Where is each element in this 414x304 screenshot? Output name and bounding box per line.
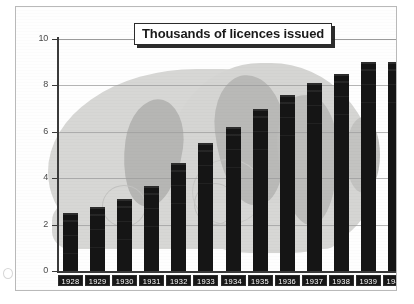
x-axis-label-1937: 1937 — [302, 275, 327, 286]
y-tick-label-8: 8 — [22, 79, 48, 89]
bar-1940 — [388, 62, 397, 271]
x-axis-label-1939: 1939 — [356, 275, 381, 286]
x-axis-label-1933: 1933 — [193, 275, 218, 286]
bar-1936 — [280, 95, 295, 271]
x-axis-label-1929: 1929 — [85, 275, 110, 286]
x-axis-label-1930: 1930 — [112, 275, 137, 286]
page-title: Thousands of licences issued — [142, 26, 324, 41]
x-axis-label-1938: 1938 — [329, 275, 354, 286]
y-tick-label-10: 10 — [22, 33, 48, 43]
chart-title-plaque: Thousands of licences issued — [134, 23, 332, 45]
plot-area: 0246810 19281929193019311932193319341935… — [16, 7, 397, 291]
x-axis-line — [57, 271, 397, 273]
bar-1929 — [90, 207, 105, 271]
bar-1939 — [361, 62, 376, 271]
y-tick-label-0: 0 — [22, 265, 48, 275]
bar-1932 — [171, 163, 186, 271]
bar-1931 — [144, 186, 159, 271]
x-axis-label-1934: 1934 — [221, 275, 246, 286]
y-tick-label-4: 4 — [22, 172, 48, 182]
bar-1933 — [198, 143, 213, 271]
x-axis-label-1936: 1936 — [275, 275, 300, 286]
x-axis-label-1928: 1928 — [58, 275, 83, 286]
bar-1934 — [226, 127, 241, 271]
x-axis-label-1940: 1940 — [383, 275, 397, 286]
y-tick-label-2: 2 — [22, 219, 48, 229]
x-axis-label-1935: 1935 — [248, 275, 273, 286]
x-axis-label-1932: 1932 — [166, 275, 191, 286]
bar-1937 — [307, 83, 322, 271]
x-axis-label-1931: 1931 — [139, 275, 164, 286]
bar-1930 — [117, 199, 132, 271]
y-tick-label-6: 6 — [22, 126, 48, 136]
bar-1938 — [334, 74, 349, 271]
chart-frame: 0246810 19281929193019311932193319341935… — [15, 6, 397, 291]
bar-1928 — [63, 213, 78, 271]
y-axis-line — [57, 37, 59, 273]
scan-artifact-mark — [3, 268, 13, 279]
bar-1935 — [253, 109, 268, 271]
